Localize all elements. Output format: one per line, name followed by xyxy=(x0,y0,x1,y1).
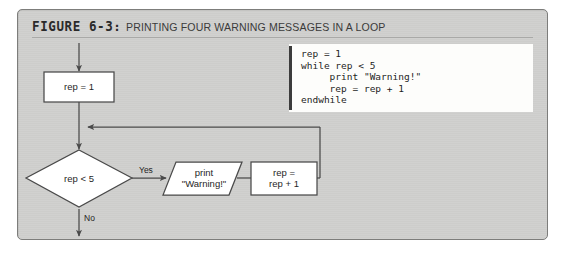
flow-node-decision xyxy=(26,150,132,207)
figure-title-colon: : xyxy=(113,19,121,34)
figure-title: FIGURE 6-3 : PRINTING FOUR WARNING MESSA… xyxy=(32,19,396,35)
figure-panel: FIGURE 6-3 : PRINTING FOUR WARNING MESSA… xyxy=(17,9,548,240)
pseudocode-block: rep = 1 while rep < 5 print "Warning!" r… xyxy=(289,44,533,112)
flow-node-init xyxy=(44,72,114,102)
flow-node-increment xyxy=(251,162,317,195)
figure-caption: PRINTING FOUR WARNING MESSAGES IN A LOOP xyxy=(126,21,385,33)
flow-node-output xyxy=(163,162,242,195)
code-accent-bar xyxy=(289,46,292,110)
figure-root: FIGURE 6-3 : PRINTING FOUR WARNING MESSA… xyxy=(0,0,564,253)
title-divider xyxy=(32,37,533,38)
pseudocode-text: rep = 1 while rep < 5 print "Warning!" r… xyxy=(301,48,421,106)
figure-number: FIGURE 6-3 xyxy=(32,17,113,34)
